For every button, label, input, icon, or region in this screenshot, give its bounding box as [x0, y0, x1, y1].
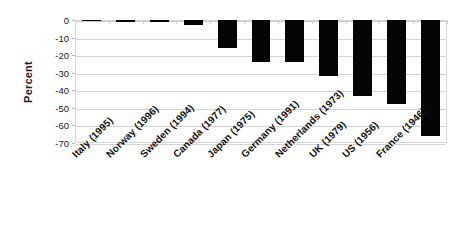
truncated-header-text: · · · · · · · · — [245, 0, 473, 5]
bar[interactable] — [319, 20, 338, 76]
x-axis-tick — [278, 20, 279, 24]
x-axis-tick — [109, 20, 110, 24]
y-axis-tick — [72, 143, 75, 144]
x-axis-tick — [244, 20, 245, 24]
y-axis-tick-label: -30 — [40, 67, 73, 78]
bar[interactable] — [218, 20, 237, 48]
bar[interactable] — [353, 20, 372, 96]
x-axis-tick — [312, 20, 313, 24]
y-axis-tick-label: -20 — [40, 50, 73, 61]
bar[interactable] — [387, 20, 406, 104]
y-axis-tick-label: -70 — [40, 138, 73, 149]
x-axis-tick — [346, 20, 347, 24]
bar[interactable] — [252, 20, 271, 62]
x-axis-tick — [379, 20, 380, 24]
x-axis-tick — [447, 20, 448, 24]
y-axis-tick-label: -40 — [40, 85, 73, 96]
bar[interactable] — [82, 20, 101, 21]
bar[interactable] — [421, 20, 440, 136]
x-axis-tick — [176, 20, 177, 24]
x-axis-tick — [210, 20, 211, 24]
bar-chart: · · · · · · · · Percent 0-10-20-30-40-50… — [0, 0, 473, 239]
bar[interactable] — [150, 20, 169, 22]
bar[interactable] — [285, 20, 304, 62]
y-axis-tick-label: 0 — [40, 15, 73, 26]
x-axis-tick — [143, 20, 144, 24]
bar[interactable] — [116, 20, 135, 22]
y-axis-tick-label: -50 — [40, 102, 73, 113]
bar[interactable] — [184, 20, 203, 25]
x-axis-tick — [413, 20, 414, 24]
y-axis-tick-label: -10 — [40, 32, 73, 43]
y-axis-tick-labels: 0-10-20-30-40-50-60-70 — [40, 20, 73, 143]
y-axis-tick-label: -60 — [40, 120, 73, 131]
